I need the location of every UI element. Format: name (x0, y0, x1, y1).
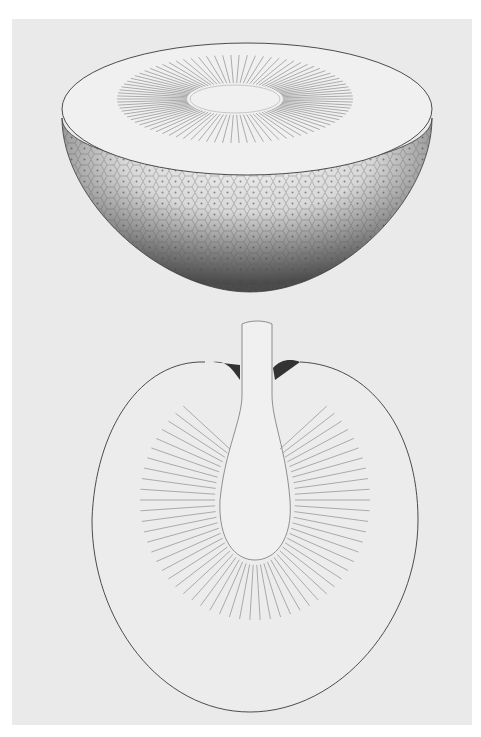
longitudinal-section-figure (92, 321, 418, 712)
halved-fruit-figure (60, 43, 440, 300)
illustration (0, 0, 481, 737)
